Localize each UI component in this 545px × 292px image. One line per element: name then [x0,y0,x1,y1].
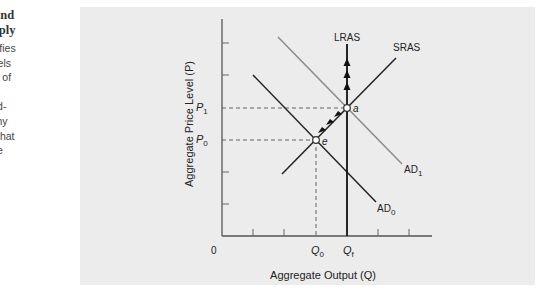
p0-tick-label: P0 [196,133,208,148]
ad-as-chart: LRAS SRAS AD1 AD0 a e P1 P0 Q0 Qf 0 Aggr… [0,0,545,292]
point-e-label: e [322,136,328,147]
sras-movement-arrows [318,111,342,133]
y-axis-title: Aggregate Price Level (P) [183,61,195,187]
ad1-label: AD1 [404,164,423,178]
point-a-label: a [353,103,359,114]
sras-curve [282,58,396,174]
x-axis-title: Aggregate Output (Q) [270,269,376,281]
q0-tick-label: Q0 [311,244,325,259]
lras-up-arrows [344,58,351,90]
sras-label: SRAS [393,42,421,53]
ad1-curve [278,37,402,164]
origin-label: 0 [211,245,217,256]
point-a [344,105,351,112]
lras-label: LRAS [334,32,360,43]
point-e [313,137,320,144]
p1-tick-label: P1 [196,101,208,116]
qf-tick-label: Qf [343,244,355,259]
ad0-label: AD0 [377,203,396,217]
